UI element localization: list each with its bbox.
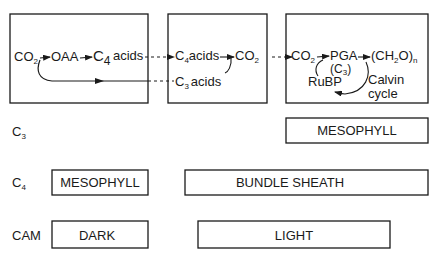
return-arrowhead-icon bbox=[95, 78, 104, 84]
c4-bundle-sheath-label: BUNDLE SHEATH bbox=[236, 175, 344, 190]
photosynthesis-pathway-diagram: CO2 OAA C4 acids C4acids CO2 C3acids CO2… bbox=[0, 0, 444, 263]
box2-c4acids-label: C4acids bbox=[175, 48, 220, 65]
box2-c3acids-label: C3acids bbox=[175, 74, 222, 91]
c4-mesophyll-label: MESOPHYLL bbox=[60, 175, 139, 190]
c3-mesophyll-label: MESOPHYLL bbox=[317, 123, 396, 138]
cam-dark-label: DARK bbox=[79, 228, 115, 243]
cam-light-label: LIGHT bbox=[275, 228, 313, 243]
row-label-c4: C4 bbox=[12, 175, 26, 192]
arrow-oaa-to-c4 bbox=[80, 57, 92, 58]
arrow-co2-to-pga bbox=[317, 56, 329, 57]
box3-calvin-label: Calvin bbox=[368, 72, 404, 87]
arrow-co2-to-oaa bbox=[40, 57, 50, 58]
box3-cycle-label: cycle bbox=[368, 86, 398, 101]
box2-co2-label: CO2 bbox=[235, 48, 260, 65]
branch-curve bbox=[225, 58, 231, 73]
box3-co2-label: CO2 bbox=[291, 48, 316, 65]
box1-acids-label: acids bbox=[113, 48, 144, 63]
box3-ch2o-label: (CH2O)n bbox=[371, 48, 417, 65]
row-label-c3: C3 bbox=[12, 124, 26, 141]
box3-rubp-label: RuBP bbox=[308, 74, 342, 89]
row-label-cam: CAM bbox=[12, 228, 41, 243]
box1-oaa-label: OAA bbox=[51, 49, 79, 64]
box1-c4-label: C4 bbox=[93, 47, 111, 68]
box3-pga-label: PGA bbox=[330, 48, 358, 63]
box1-co2-label: CO2 bbox=[14, 49, 39, 66]
